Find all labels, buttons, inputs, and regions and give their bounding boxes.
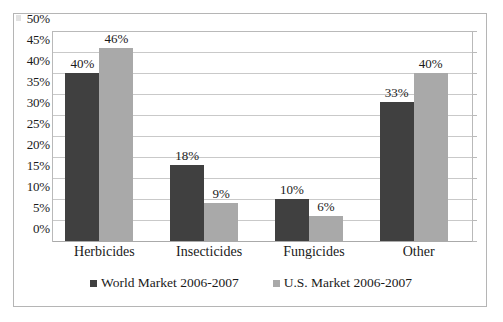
- x-axis-category-label: Insecticides: [157, 243, 262, 261]
- bar[interactable]: [65, 73, 99, 241]
- y-axis-tick-mark: [472, 115, 477, 116]
- x-axis-category-label: Other: [366, 243, 471, 261]
- bar[interactable]: [414, 73, 448, 241]
- x-axis-category-labels: HerbicidesInsecticidesFungicidesOther: [52, 243, 473, 265]
- y-axis-tick-mark: [472, 136, 477, 137]
- y-axis-tick-mark: [472, 220, 477, 221]
- bar[interactable]: [380, 102, 414, 241]
- legend-swatch-icon: [273, 280, 280, 287]
- y-axis-tick-label: 10%: [14, 180, 50, 193]
- y-axis-tick-label: 30%: [14, 96, 50, 109]
- y-axis-tick-mark: [472, 178, 477, 179]
- plot-area: 40%46%18%9%10%6%33%40%: [52, 31, 473, 242]
- y-axis-tick-mark: [472, 52, 477, 53]
- y-axis-tick-mark: [472, 199, 477, 200]
- legend-item[interactable]: World Market 2006-2007: [90, 275, 239, 291]
- y-axis-tick-label: 15%: [14, 159, 50, 172]
- x-axis-category-label: Fungicides: [262, 243, 367, 261]
- gridline: [53, 241, 472, 242]
- y-axis-tick-label: 25%: [14, 117, 50, 130]
- bar-value-label: 10%: [266, 183, 318, 196]
- y-axis-tick-mark: [472, 94, 477, 95]
- y-axis-tick-label: 0%: [14, 222, 50, 235]
- y-axis-tick-mark: [472, 31, 477, 32]
- y-axis-tick-mark: [472, 157, 477, 158]
- y-axis-tick-label: 5%: [14, 201, 50, 214]
- y-axis-tick-label: 45%: [14, 33, 50, 46]
- y-axis-tick-mark: [472, 241, 477, 242]
- bar[interactable]: [309, 216, 343, 241]
- bar-group: 40%46%: [65, 31, 133, 241]
- y-axis-tick-label: 50%: [14, 12, 50, 25]
- bar-value-label: 18%: [161, 149, 213, 162]
- bar-group: 10%6%: [275, 31, 343, 241]
- legend-label: U.S. Market 2006-2007: [284, 275, 412, 291]
- bar[interactable]: [170, 165, 204, 241]
- chart-plot-wrapper: 0%5%10%15%20%25%30%35%40%45%50% 40%46%18…: [14, 14, 486, 306]
- legend-label: World Market 2006-2007: [101, 275, 239, 291]
- bar-value-label: 46%: [90, 32, 142, 45]
- chart-legend: World Market 2006-2007U.S. Market 2006-2…: [14, 272, 488, 294]
- bar-value-label: 9%: [195, 187, 247, 200]
- legend-item[interactable]: U.S. Market 2006-2007: [273, 275, 412, 291]
- y-axis-tick-label: 40%: [14, 54, 50, 67]
- bars-layer: 40%46%18%9%10%6%33%40%: [53, 31, 472, 241]
- bar-value-label: 40%: [405, 57, 457, 70]
- chart-frame: 0%5%10%15%20%25%30%35%40%45%50% 40%46%18…: [13, 13, 487, 307]
- y-axis-tick-labels: 0%5%10%15%20%25%30%35%40%45%50%: [14, 18, 50, 228]
- bar-group: 33%40%: [380, 31, 448, 241]
- bar[interactable]: [204, 203, 238, 241]
- legend-swatch-icon: [90, 280, 97, 287]
- bar-group: 18%9%: [170, 31, 238, 241]
- y-axis-tick-label: 35%: [14, 75, 50, 88]
- y-axis-tick-mark: [472, 73, 477, 74]
- x-axis-category-label: Herbicides: [52, 243, 157, 261]
- bar[interactable]: [99, 48, 133, 241]
- y-axis-tick-label: 20%: [14, 138, 50, 151]
- bar-value-label: 6%: [300, 200, 352, 213]
